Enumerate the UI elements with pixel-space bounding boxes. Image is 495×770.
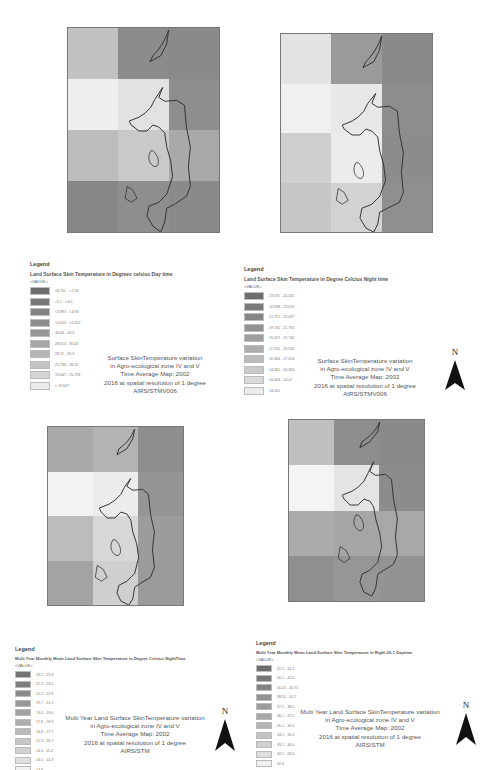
legend-swatch: [244, 303, 264, 311]
tick-label: ·: [70, 27, 71, 31]
north-arrow-icon: [444, 360, 466, 390]
north-label: N: [444, 347, 466, 357]
legend-range: 14.461 - 16.363: [269, 368, 294, 372]
legend-range: 34.1 - 35.0: [277, 733, 294, 737]
caption-line: Time Average Map: 2002: [295, 724, 445, 732]
legend-item: 13.9: [15, 765, 235, 770]
legend-item: <5.1 - <4.5: [30, 297, 230, 308]
legend-item: <3.887 - <3.93: [30, 307, 230, 318]
legend-title: Multi Year Monthly Mean Land Surface Ski…: [256, 650, 476, 655]
legend-title: Land Surface Skin Temperature in Degree …: [244, 276, 444, 282]
map-caption: Multi Year Land Surface SkinTemperature …: [295, 708, 445, 749]
legend-item: <0.613 - <1.647: [30, 318, 230, 329]
legend-range: 40.1 - 41.0: [277, 676, 294, 680]
caption-line: AIRS/STMV006: [305, 390, 425, 398]
legend-swatch: [244, 324, 264, 332]
legend-range: 19.647 - 25.733: [55, 373, 80, 377]
legend-item: 14.0 - 14.3: [15, 756, 235, 766]
legend-range: 38.51 - 40.2: [277, 695, 296, 699]
legend-heading: Legend: [244, 266, 444, 272]
legend-item: 22.098 - 23.070: [244, 302, 444, 313]
legend-range: 15.3 - 16.7: [36, 739, 53, 743]
legend-swatch: [15, 681, 31, 688]
legend-range: 21.2 - 21.8: [36, 692, 53, 696]
north-arrow: N: [214, 706, 236, 755]
legend-range: 32.1 - 33.0: [277, 752, 294, 756]
legend-range: <8.751 - <7.16: [55, 289, 78, 293]
caption-line: Time Average Map: 2002: [95, 370, 215, 378]
legend-range: <0.613 - <1.647: [55, 321, 80, 325]
caption-line: Surface SkinTemperature variation: [95, 354, 215, 362]
legend-swatch: [256, 751, 272, 758]
legend-range: 16.364 - 17.054: [269, 357, 294, 361]
legend-swatch: [256, 675, 272, 682]
legend-swatch: [30, 319, 50, 327]
legend-swatch: [15, 738, 31, 745]
legend-swatch: [256, 760, 272, 767]
legend-swatch: [30, 350, 50, 358]
legend-range: 30.64 - 40.3: [55, 331, 74, 335]
legend-range: 28.613 - 30.63: [55, 342, 78, 346]
legend-item: 40.1 - 41.0: [256, 674, 476, 684]
legend-swatch: [15, 766, 31, 770]
legend-swatch: [15, 690, 31, 697]
legend-value-label: <VALUE>: [15, 663, 235, 668]
legend-swatch: [244, 313, 264, 321]
legend-range: 28.21 - 29.3: [55, 352, 74, 356]
legend-item: 21.9 - 23.0: [15, 680, 235, 690]
legend-range: 33.1 - 34.0: [277, 743, 294, 747]
legend-item: <8.751 - <7.16: [30, 286, 230, 297]
legend-item: 38.51 - 40.2: [256, 693, 476, 703]
legend-range: 17.8 - 18.9: [36, 720, 53, 724]
map-caption: Multi Year Land Surface SkinTemperature …: [60, 714, 210, 755]
legend-range: 36.1 - 37.0: [277, 714, 294, 718]
legend-swatch: [30, 287, 50, 295]
legend-swatch: [15, 728, 31, 735]
map-day-2002: ·: [67, 27, 220, 233]
legend-swatch: [30, 371, 50, 379]
legend-range: <5.1 - <4.5: [55, 300, 72, 304]
legend-range: 14.4 - 15.2: [36, 749, 53, 753]
legend-value-label: <VALUE>: [244, 284, 444, 289]
legend-item: 30.64 - 40.3: [30, 328, 230, 339]
legend-multi-year-day: Legend Multi Year Monthly Mean Land Surf…: [256, 640, 476, 769]
legend-item: 23.1 - 23.4: [15, 670, 235, 680]
legend-swatch: [256, 713, 272, 720]
legend-swatch: [256, 722, 272, 729]
legend-swatch: [256, 694, 272, 701]
north-arrow-icon: [455, 713, 477, 745]
map-multi-year-night: [47, 426, 184, 606]
legend-heading: Legend: [15, 646, 235, 652]
caption-line: Time Average Map: 2002: [60, 730, 210, 738]
legend-swatch: [30, 329, 50, 337]
legend-range: 23.1 - 23.4: [36, 673, 53, 677]
legend-swatch: [15, 719, 31, 726]
legend-range: <3.887 - <3.93: [55, 310, 78, 314]
legend-item: 23.071 - 24.425: [244, 291, 444, 302]
zone-outline: [281, 34, 432, 232]
legend-range: < 19.647: [55, 384, 69, 388]
legend-range: 23.071 - 24.425: [269, 294, 294, 298]
legend-range: 16.8 - 17.7: [36, 730, 53, 734]
legend-swatch: [15, 709, 31, 716]
legend-value-label: <VALUE>: [30, 279, 230, 284]
north-label: N: [214, 706, 236, 716]
legend-range: 19.207 - 19.740: [269, 336, 294, 340]
zone-outline: [68, 28, 219, 232]
north-arrow-icon: [214, 719, 236, 751]
legend-swatch: [256, 703, 272, 710]
legend-heading: Legend: [256, 640, 476, 646]
legend-swatch: [256, 684, 272, 691]
legend-item: 21.2 - 21.8: [15, 689, 235, 699]
legend-swatch: [244, 345, 264, 353]
caption-line: Surface SkinTemperature variation: [305, 357, 425, 365]
legend-swatch: [30, 361, 50, 369]
legend-swatch: [244, 292, 264, 300]
caption-line: in Agro-ecological zone IV and V: [305, 365, 425, 373]
map-multi-year-day: [288, 419, 425, 602]
legend-swatch: [244, 387, 264, 395]
caption-line: AIRS/STMV006: [95, 387, 215, 395]
legend-swatch: [15, 747, 31, 754]
legend-item: 28.613 - 30.63: [30, 339, 230, 350]
legend-swatch: [256, 732, 272, 739]
